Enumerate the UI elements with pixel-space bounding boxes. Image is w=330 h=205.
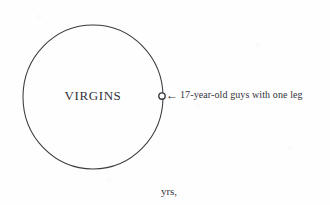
point-annotation-label: 17-year-old guys with one leg (180, 90, 303, 100)
stray-page-text: yrs, (148, 185, 190, 197)
point-marker-circle (159, 93, 165, 99)
virgins-set-label: VIRGINS (62, 88, 124, 104)
point-annotation: ← 17-year-old guys with one leg (166, 89, 303, 101)
arrow-left-icon: ← (166, 89, 178, 101)
diagram-canvas (0, 0, 330, 205)
scanned-figure-page: VIRGINS ← 17-year-old guys with one leg … (0, 0, 330, 205)
